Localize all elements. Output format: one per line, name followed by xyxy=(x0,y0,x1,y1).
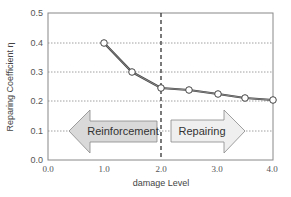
y-axis-ticks: 0.5 0.4 0.3 0.2 0.1 0.0 xyxy=(30,8,43,165)
svg-text:0.0: 0.0 xyxy=(42,164,54,174)
chart: 0.5 0.4 0.3 0.2 0.1 0.0 0.0 1.0 2.0 3.0 … xyxy=(0,0,291,197)
svg-text:0.4: 0.4 xyxy=(30,38,43,48)
svg-text:Repairing: Repairing xyxy=(178,125,225,137)
svg-text:1.0: 1.0 xyxy=(98,164,110,174)
data-point xyxy=(158,85,165,92)
svg-text:0.5: 0.5 xyxy=(30,8,43,18)
svg-text:2.0: 2.0 xyxy=(155,164,167,174)
svg-text:0.1: 0.1 xyxy=(30,126,43,136)
data-point xyxy=(215,91,222,98)
svg-text:0.2: 0.2 xyxy=(30,96,43,106)
x-axis-label: damage Level xyxy=(133,178,190,188)
svg-text:0.0: 0.0 xyxy=(30,155,43,165)
data-point xyxy=(101,40,108,47)
data-point xyxy=(129,69,136,76)
data-point xyxy=(186,87,193,94)
data-point xyxy=(270,97,277,104)
y-axis-label: Reparing Coefficient η xyxy=(5,43,15,132)
data-point xyxy=(242,95,249,102)
svg-text:0.3: 0.3 xyxy=(30,67,43,77)
x-axis-ticks: 0.0 1.0 2.0 3.0 4.0 xyxy=(42,164,278,174)
svg-text:4.0: 4.0 xyxy=(266,164,278,174)
svg-text:3.0: 3.0 xyxy=(211,164,223,174)
svg-text:Reinforcement: Reinforcement xyxy=(87,125,159,137)
